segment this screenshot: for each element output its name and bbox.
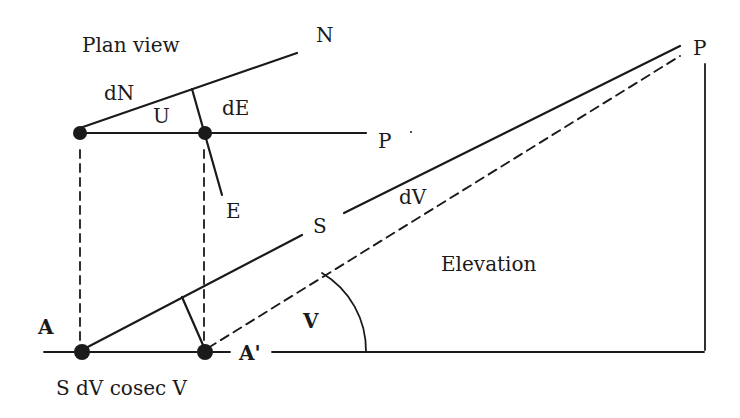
plan-view-title: Plan view <box>82 33 180 57</box>
slope-line-lower <box>82 235 302 350</box>
label-v: V <box>302 309 319 333</box>
elevation-title: Elevation <box>441 252 537 276</box>
label-target-p: P <box>693 36 706 60</box>
label-a: A <box>37 315 54 339</box>
label-north: N <box>316 23 334 47</box>
slope-line-upper <box>344 46 680 213</box>
east-line <box>192 89 222 195</box>
label-s: S <box>313 214 327 238</box>
label-a-prime: A' <box>238 341 261 365</box>
label-dn: dN <box>104 81 134 105</box>
plan-point-a <box>73 126 87 140</box>
elevation-point-a-prime <box>197 344 213 360</box>
angle-arc <box>322 273 366 352</box>
label-east: E <box>226 199 241 223</box>
dashed-sight-line <box>208 56 680 348</box>
plan-point-b <box>198 126 212 140</box>
label-u: U <box>153 104 170 128</box>
label-plan-p: P <box>378 129 391 153</box>
diagram-canvas: Plan view N dN U dE P E S dV P Elevation… <box>0 0 740 418</box>
perpendicular-offset <box>182 297 203 345</box>
stray-dot <box>410 131 412 133</box>
elevation-point-a <box>74 344 90 360</box>
label-de: dE <box>222 96 249 120</box>
offset-formula: S dV cosec V <box>56 376 188 400</box>
label-dv: dV <box>399 185 427 209</box>
